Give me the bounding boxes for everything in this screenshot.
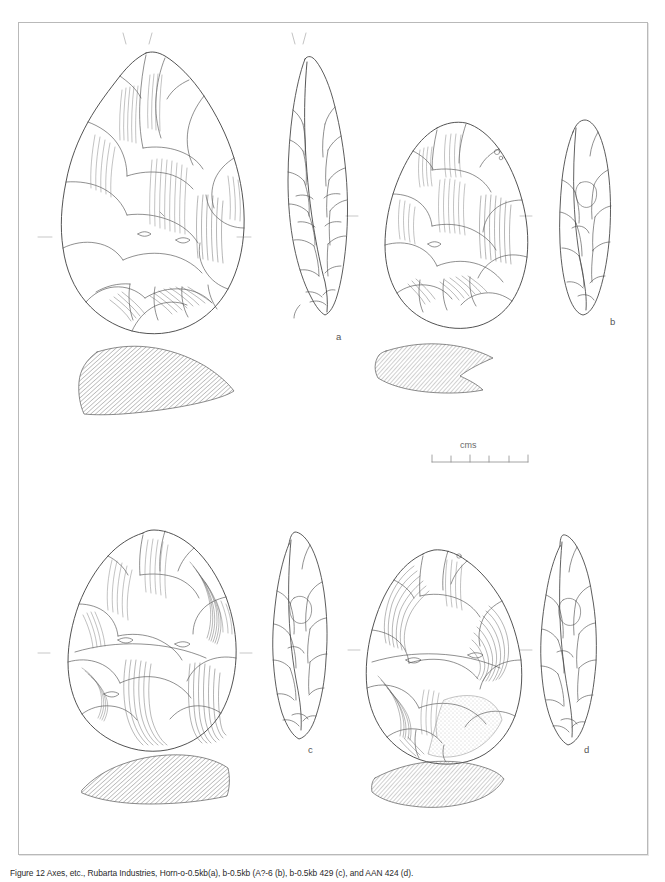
- figure-caption-strip: Figure 12 Axes, etc., Rubarta Industries…: [0, 869, 665, 882]
- figure-caption: Figure 12 Axes, etc., Rubarta Industries…: [10, 869, 413, 878]
- page-border: [18, 22, 648, 855]
- specimen-label-b: b: [610, 316, 615, 327]
- scale-bar-unit-label: cms: [460, 440, 477, 450]
- specimen-label-a: a: [336, 331, 341, 342]
- specimen-label-c: c: [308, 744, 313, 755]
- figure-plate: a b c d cms Figure 12 Axes, etc., Rubart…: [0, 0, 665, 882]
- specimen-label-d: d: [584, 744, 589, 755]
